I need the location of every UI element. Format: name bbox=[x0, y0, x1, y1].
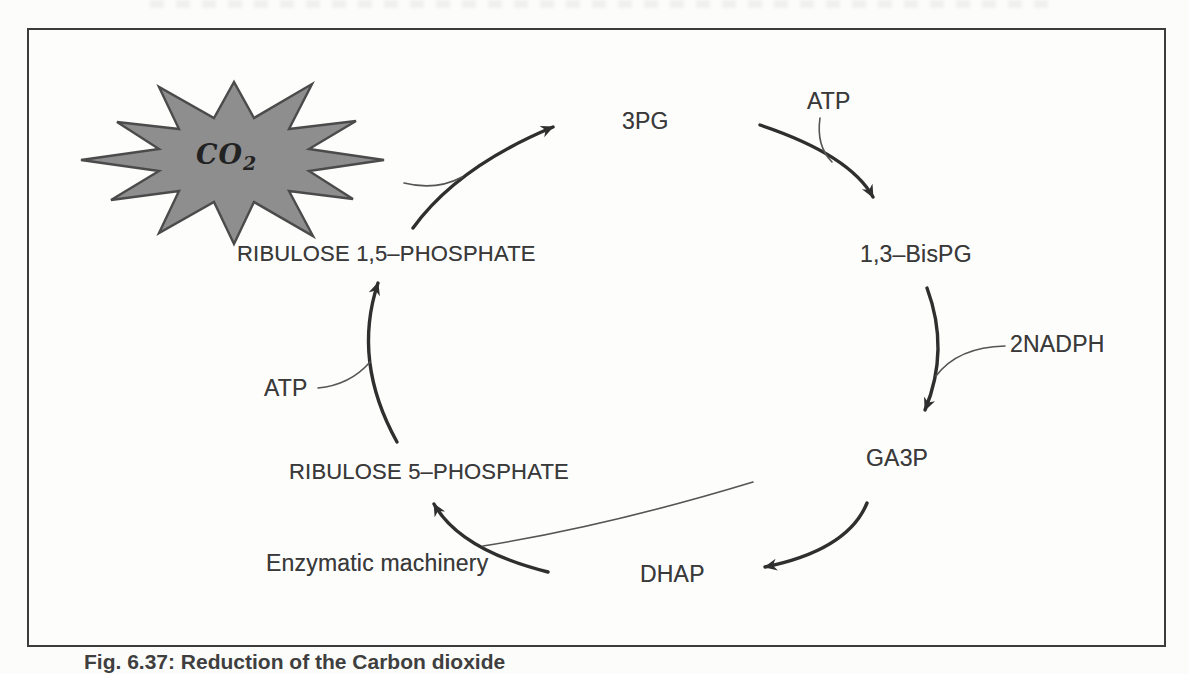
figure-caption: Fig. 6.37: Reduction of the Carbon dioxi… bbox=[84, 650, 505, 674]
node-3pg-label: 3PG bbox=[622, 109, 669, 133]
arrow-ribulose15p-to-3pg bbox=[413, 127, 553, 228]
cofactor-nadph-label: 2NADPH bbox=[1010, 332, 1105, 356]
node-ga3p-label: GA3P bbox=[866, 446, 928, 470]
arrow-3pg-to-13bispg bbox=[760, 125, 873, 197]
co2-subscript: 2 bbox=[243, 152, 257, 174]
co2-formula: CO bbox=[196, 139, 243, 170]
enzymatic-machinery-line bbox=[483, 482, 753, 546]
arrow-13bispg-to-ga3p bbox=[925, 288, 938, 410]
node-ribulose15p-label: RIBULOSE 1,5–PHOSPHATE bbox=[237, 242, 536, 265]
arrow-ribulose5p-to-ribulose15p bbox=[368, 283, 397, 442]
co2-label: CO2 bbox=[196, 139, 257, 174]
cofactor-atp-left-label: ATP bbox=[264, 376, 308, 400]
node-13bispg-label: 1,3–BisPG bbox=[860, 242, 972, 266]
atp-left-input-line bbox=[318, 362, 370, 388]
node-ribulose5p-label: RIBULOSE 5–PHOSPHATE bbox=[289, 460, 569, 483]
nadph-input-line bbox=[936, 346, 1005, 376]
cofactor-atp-top-label: ATP bbox=[807, 89, 851, 113]
enzymatic-machinery-label: Enzymatic machinery bbox=[266, 551, 488, 575]
arrow-ga3p-to-dhap bbox=[765, 503, 867, 567]
node-dhap-label: DHAP bbox=[640, 562, 705, 586]
